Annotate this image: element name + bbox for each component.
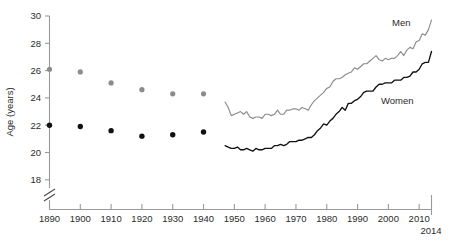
y-tick-label: 22	[30, 120, 41, 131]
series-points-men	[47, 67, 206, 97]
y-tick-label: 26	[30, 65, 41, 76]
y-axis-title: Age (years)	[4, 87, 15, 136]
y-tick-label: 30	[30, 10, 41, 21]
data-point	[47, 67, 52, 72]
x-tick-label: 1920	[131, 213, 152, 224]
x-tick-label: 1930	[162, 213, 183, 224]
data-point	[170, 91, 175, 96]
y-axis-break-icon	[44, 189, 55, 201]
data-point	[78, 69, 83, 74]
x-tick-label: 1940	[193, 213, 214, 224]
x-tick-label: 1970	[285, 213, 306, 224]
x-tick-label: 1950	[224, 213, 245, 224]
x-tick-label: 1960	[255, 213, 276, 224]
x-tick-label: 1910	[101, 213, 122, 224]
data-point	[139, 133, 144, 138]
x-tick-label: 1890	[39, 213, 60, 224]
series-points-women	[47, 123, 206, 139]
y-tick-label: 20	[30, 147, 41, 158]
x-tick-label: 1900	[70, 213, 91, 224]
x-tick-label: 1990	[347, 213, 368, 224]
y-tick-label: 28	[30, 38, 41, 49]
data-point	[47, 123, 52, 128]
y-tick-label: 18	[30, 174, 41, 185]
x-tick-label: 2010	[409, 213, 430, 224]
x-axis-ticks: 1890190019101920193019401950196019701980…	[39, 204, 430, 224]
x-axis-end-label: 2014	[420, 225, 441, 236]
data-point	[201, 129, 206, 134]
data-point	[201, 91, 206, 96]
y-tick-label: 24	[30, 92, 41, 103]
data-point	[108, 128, 113, 133]
data-point	[139, 87, 144, 92]
chart-container: 18202224262830 1890190019101920193019401…	[0, 0, 454, 243]
x-tick-label: 2000	[378, 213, 399, 224]
series-label-women: Women	[381, 95, 414, 106]
x-tick-label: 1980	[316, 213, 337, 224]
data-point	[170, 132, 175, 137]
y-axis-ticks: 18202224262830	[30, 10, 49, 185]
data-point	[78, 124, 83, 129]
marriage-age-line-chart: 18202224262830 1890190019101920193019401…	[0, 0, 454, 243]
series-label-men: Men	[392, 17, 410, 28]
data-point	[109, 80, 114, 85]
